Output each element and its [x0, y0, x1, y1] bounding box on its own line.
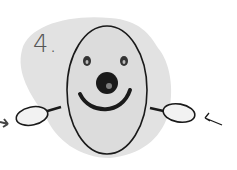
face-illustration — [0, 0, 237, 170]
nose-icon — [96, 72, 118, 94]
right-hand-icon — [162, 101, 197, 124]
step-number: 4. — [33, 30, 58, 58]
right-arrow-icon — [205, 113, 222, 125]
left-arrow-icon — [0, 119, 8, 127]
